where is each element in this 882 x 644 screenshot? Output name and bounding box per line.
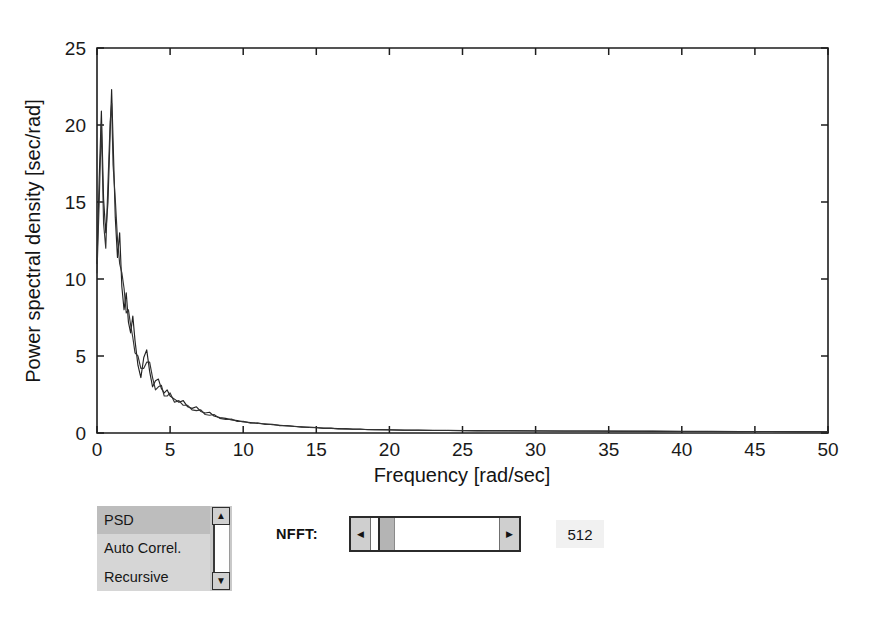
listbox-item[interactable]: PSD <box>97 506 210 534</box>
method-listbox-scrollbar[interactable]: ▲ ▼ <box>210 506 232 591</box>
y-tick-label: 20 <box>65 115 86 136</box>
y-tick-label: 25 <box>65 38 86 59</box>
scrollbar-trough[interactable] <box>213 525 230 572</box>
slider-trough[interactable] <box>371 518 499 550</box>
y-tick-label: 10 <box>65 269 86 290</box>
x-tick-label: 0 <box>92 439 103 460</box>
control-panel: PSDAuto Correl.Recursive ▲ ▼ NFFT: ◀ ▶ 5… <box>0 498 882 644</box>
x-tick-label: 20 <box>379 439 400 460</box>
scroll-down-arrow-icon[interactable]: ▼ <box>212 572 230 590</box>
slider-thumb[interactable] <box>378 518 395 550</box>
scroll-up-arrow-icon[interactable]: ▲ <box>212 507 230 525</box>
x-tick-label: 45 <box>744 439 765 460</box>
nfft-label: NFFT: <box>276 526 318 542</box>
nfft-value-display: 512 <box>556 520 604 548</box>
x-axis-title: Frequency [rad/sec] <box>374 464 551 486</box>
x-tick-label: 30 <box>525 439 546 460</box>
y-axis-title: Power spectral density [sec/rad] <box>22 99 44 382</box>
x-tick-label: 25 <box>452 439 473 460</box>
x-tick-label: 50 <box>817 439 838 460</box>
y-tick-label: 5 <box>75 346 86 367</box>
axis-box <box>97 48 828 433</box>
listbox-item[interactable]: Auto Correl. <box>97 534 210 562</box>
psd-figure: Power spectral density [sec/rad] Frequen… <box>0 0 882 500</box>
series-line <box>97 90 828 432</box>
x-tick-label: 5 <box>165 439 176 460</box>
listbox-item[interactable]: Recursive <box>97 563 210 591</box>
method-listbox-items[interactable]: PSDAuto Correl.Recursive <box>97 506 210 591</box>
x-tick-label: 10 <box>233 439 254 460</box>
series-line <box>97 103 828 431</box>
plot-body: 051015202530354045500510152025 <box>65 38 839 460</box>
nfft-slider[interactable]: ◀ ▶ <box>349 516 521 552</box>
x-tick-label: 15 <box>306 439 327 460</box>
x-tick-label: 40 <box>671 439 692 460</box>
psd-plot: Power spectral density [sec/rad] Frequen… <box>0 0 882 500</box>
slider-increment-arrow-icon[interactable]: ▶ <box>499 518 519 550</box>
y-tick-label: 15 <box>65 192 86 213</box>
method-listbox[interactable]: PSDAuto Correl.Recursive ▲ ▼ <box>97 506 232 591</box>
x-tick-label: 35 <box>598 439 619 460</box>
y-tick-label: 0 <box>75 423 86 444</box>
slider-decrement-arrow-icon[interactable]: ◀ <box>351 518 371 550</box>
